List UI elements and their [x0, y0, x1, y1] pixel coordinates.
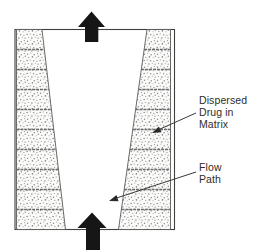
leader-arrowhead-icon	[109, 195, 119, 201]
flow-path-label-line1: Flow	[199, 161, 222, 173]
dispersed-drug-label-line2: Drug in	[199, 106, 247, 118]
dispersed-drug-label-line3: Matrix	[199, 118, 247, 130]
dispersed-drug-label: Dispersed Drug in Matrix	[199, 94, 247, 130]
figure-canvas: Dispersed Drug in Matrix Flow Path	[0, 0, 261, 252]
dispersed-drug-label-line1: Dispersed	[199, 94, 247, 106]
flow-path-label: Flow Path	[199, 161, 222, 185]
flow-path-label-line2: Path	[199, 173, 222, 185]
inlet-up-arrow-icon	[78, 213, 107, 251]
outlet-up-arrow-icon	[78, 12, 105, 43]
